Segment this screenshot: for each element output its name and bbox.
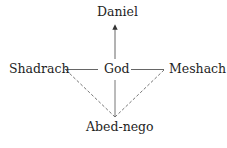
- node-god: God: [104, 63, 130, 76]
- node-daniel: Daniel: [97, 6, 138, 19]
- node-meshach: Meshach: [169, 63, 226, 76]
- node-shadrach: Shadrach: [9, 63, 70, 76]
- edge-shadrach-abednego: [66, 70, 115, 117]
- relationship-diagram: Daniel God Shadrach Meshach Abed-nego: [0, 0, 227, 148]
- node-abed-nego: Abed-nego: [86, 121, 154, 134]
- edge-meshach-abednego: [115, 70, 164, 117]
